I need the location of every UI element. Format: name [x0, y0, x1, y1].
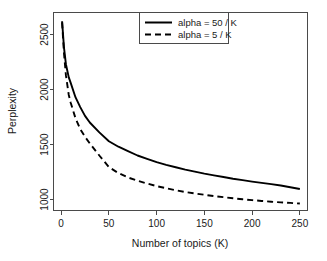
- x-tick-label: 250: [292, 218, 309, 229]
- y-tick-label: 1500: [39, 133, 50, 156]
- y-tick-label: 1000: [39, 188, 50, 211]
- y-tick-label: 2000: [39, 78, 50, 101]
- y-tick-label: 2500: [39, 23, 50, 46]
- legend-label-0: alpha = 50 / K: [178, 17, 238, 28]
- legend-label-1: alpha = 5 / K: [178, 29, 232, 40]
- perplexity-chart-figure: 1000150020002500 050100150200250 Perplex…: [0, 0, 327, 261]
- x-axis-title: Number of topics (K): [132, 237, 228, 249]
- x-tick-label: 200: [244, 218, 261, 229]
- x-tick-label: 50: [103, 218, 115, 229]
- y-axis-title: Perplexity: [6, 87, 18, 134]
- x-tick-label: 150: [196, 218, 213, 229]
- x-tick-label: 100: [148, 218, 165, 229]
- chart-legend: alpha = 50 / K alpha = 5 / K: [140, 13, 238, 44]
- x-tick-label: 0: [58, 218, 64, 229]
- chart-canvas: 1000150020002500 050100150200250 Perplex…: [0, 0, 327, 261]
